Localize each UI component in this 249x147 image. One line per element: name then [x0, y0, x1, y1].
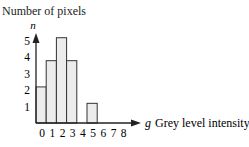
y-tick-label: 2 — [24, 84, 30, 96]
x-tick-label: 1 — [49, 127, 55, 139]
bar-1 — [46, 61, 56, 123]
y-axis-label: n — [30, 19, 36, 31]
y-axis-arrow-icon — [33, 33, 40, 43]
y-tick-label: 4 — [24, 51, 30, 63]
bar-0 — [36, 87, 46, 123]
x-tick-label: 2 — [60, 127, 66, 139]
x-tick-label: 4 — [80, 127, 86, 139]
histogram-chart: n g Grey level intensity 12345 012345678 — [0, 0, 249, 147]
bars — [36, 38, 97, 123]
y-tick-label: 5 — [24, 35, 30, 47]
x-tick-label: 5 — [90, 127, 96, 139]
x-tick-labels: 012345678 — [39, 127, 127, 139]
x-tick-label: 6 — [100, 127, 106, 139]
bar-3 — [67, 61, 77, 123]
x-tick-label: 7 — [111, 127, 117, 139]
bar-5 — [87, 103, 97, 123]
x-axis-symbol: g — [145, 116, 151, 130]
bar-2 — [56, 38, 66, 123]
y-tick-label: 1 — [24, 101, 30, 113]
x-tick-label: 8 — [121, 127, 127, 139]
y-tick-labels: 12345 — [24, 35, 30, 113]
x-axis-arrow-icon — [131, 120, 141, 127]
x-axis-label: Grey level intensity — [155, 116, 249, 130]
x-tick-label: 3 — [70, 127, 76, 139]
x-tick-label: 0 — [39, 127, 45, 139]
y-tick-label: 3 — [24, 68, 30, 80]
